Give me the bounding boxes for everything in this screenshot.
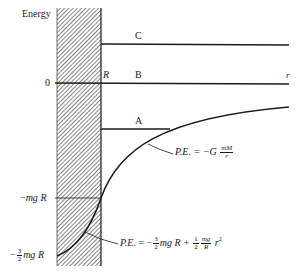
energy-diagram-canvas xyxy=(0,0,303,274)
r-text: R xyxy=(40,192,46,203)
r-axis-label: r xyxy=(286,71,290,80)
radius-label: R xyxy=(103,70,109,80)
level-b-label: B xyxy=(135,70,142,80)
neg-mgr-tick-label: −mg R xyxy=(20,193,46,203)
neg-three-halves-mgr-tick-label: −32mg R xyxy=(10,248,44,263)
y-axis-label: Energy xyxy=(22,9,51,19)
three-halves-fraction: 32 xyxy=(153,236,159,251)
inside-pe-formula: P.E. = −32mg R + 12mgR r2 xyxy=(120,236,222,251)
level-a-label: A xyxy=(135,116,142,126)
earth-interior-region xyxy=(57,8,101,266)
one-half-fraction: 12 xyxy=(193,236,199,251)
zero-level-b-line xyxy=(55,83,289,84)
mg-text: mg xyxy=(23,249,35,260)
mg-text: mg xyxy=(26,192,38,203)
mm-over-r-fraction: mMr xyxy=(220,145,233,160)
r-text: R xyxy=(38,249,44,260)
zero-tick-label: 0 xyxy=(45,78,50,88)
level-c-line xyxy=(101,44,289,45)
three-halves-fraction: 32 xyxy=(17,248,23,263)
outside-pe-formula: P.E. = −G mMr xyxy=(175,145,234,160)
mg-over-r-fraction: mgR xyxy=(201,236,212,251)
level-c-label: C xyxy=(135,31,142,41)
neg-sign: − xyxy=(10,249,16,260)
outside-formula-leader xyxy=(148,144,173,154)
